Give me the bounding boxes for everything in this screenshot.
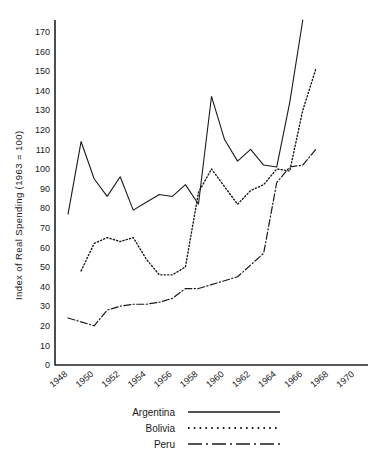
y-tick-label: 170 <box>35 27 50 37</box>
y-tick-label: 50 <box>40 262 50 272</box>
y-tick-label: 90 <box>40 184 50 194</box>
line-chart: Index of Real Spending (1963 = 100) 0102… <box>0 0 378 460</box>
x-tick-label: 1964 <box>256 369 278 390</box>
legend-label-argentina: Argentina <box>132 407 175 418</box>
x-tick-label: 1970 <box>334 369 356 390</box>
y-tick-label: 100 <box>35 164 50 174</box>
y-tick-label: 120 <box>35 125 50 135</box>
chart-figure: Index of Real Spending (1963 = 100) 0102… <box>0 0 378 460</box>
x-tick-label: 1968 <box>308 369 330 390</box>
series-line-bolivia <box>81 69 316 275</box>
series-line-argentina <box>68 20 303 214</box>
y-tick-label: 160 <box>35 47 50 57</box>
y-tick-label: 40 <box>40 282 50 292</box>
y-axis-label-text: Index of Real Spending (1963 = 100) <box>13 130 24 300</box>
y-tick-label: 140 <box>35 86 50 96</box>
axis-lines <box>55 20 368 365</box>
y-tick-label: 0 <box>45 360 50 370</box>
x-tick-label: 1948 <box>48 369 70 390</box>
y-tick-label: 60 <box>40 243 50 253</box>
y-tick-label: 20 <box>40 321 50 331</box>
x-tick-label: 1956 <box>152 369 174 390</box>
series-group <box>68 20 316 326</box>
x-tick-label: 1966 <box>282 369 304 390</box>
y-tick-label: 110 <box>36 145 50 155</box>
x-tick-label: 1950 <box>74 369 96 390</box>
y-tick-label: 150 <box>35 66 50 76</box>
y-axis-label: Index of Real Spending (1963 = 100) <box>13 130 24 300</box>
y-tick-label: 130 <box>35 105 50 115</box>
x-tick-label: 1958 <box>178 369 200 390</box>
legend-label-bolivia: Bolivia <box>146 423 176 434</box>
y-tick-label: 30 <box>40 301 50 311</box>
series-line-peru <box>68 149 316 325</box>
x-tick-label: 1954 <box>126 369 148 390</box>
y-tick-labels: 0102030405060708090100110120130140150160… <box>35 27 50 370</box>
x-tick-label: 1960 <box>204 369 226 390</box>
x-tick-label: 1952 <box>100 369 122 390</box>
legend-label-peru: Peru <box>154 439 175 450</box>
y-tick-label: 10 <box>40 341 50 351</box>
chart-legend: ArgentinaBoliviaPeru <box>132 407 280 450</box>
y-tick-label: 80 <box>40 203 50 213</box>
x-tick-labels: 1948195019521954195619581960196219641966… <box>48 369 357 390</box>
x-tick-label: 1962 <box>230 369 252 390</box>
y-tick-label: 70 <box>40 223 50 233</box>
